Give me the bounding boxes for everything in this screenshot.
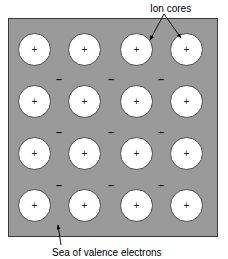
ion-core: + xyxy=(170,189,203,222)
positive-charge-symbol: + xyxy=(171,86,202,117)
positive-charge-symbol: + xyxy=(19,34,50,65)
ion-core: + xyxy=(120,137,153,170)
positive-charge-symbol: + xyxy=(69,190,100,221)
positive-charge-symbol: + xyxy=(121,86,152,117)
ion-core: + xyxy=(170,85,203,118)
ion-core: + xyxy=(18,137,51,170)
valence-electron-symbol: – xyxy=(108,180,114,191)
ion-cores-label: Ion cores xyxy=(150,3,191,14)
ion-core: + xyxy=(120,189,153,222)
valence-electron-symbol: – xyxy=(158,74,164,85)
positive-charge-symbol: + xyxy=(171,138,202,169)
sea-of-valence-electrons-label: Sea of valence electrons xyxy=(52,247,162,258)
positive-charge-symbol: + xyxy=(19,138,50,169)
ion-core: + xyxy=(120,85,153,118)
positive-charge-symbol: + xyxy=(121,34,152,65)
ion-core: + xyxy=(18,189,51,222)
valence-electron-symbol: – xyxy=(56,180,62,191)
ion-core: + xyxy=(170,137,203,170)
ion-core: + xyxy=(120,33,153,66)
metallic-bonding-figure: ++++++++++++++++––––––––– Ion cores Sea … xyxy=(0,0,228,259)
valence-electron-symbol: – xyxy=(56,127,62,138)
valence-electron-symbol: – xyxy=(158,127,164,138)
ion-core: + xyxy=(18,33,51,66)
positive-charge-symbol: + xyxy=(171,34,202,65)
valence-electron-symbol: – xyxy=(108,127,114,138)
valence-electron-symbol: – xyxy=(108,74,114,85)
ion-core: + xyxy=(68,85,101,118)
positive-charge-symbol: + xyxy=(19,86,50,117)
positive-charge-symbol: + xyxy=(121,138,152,169)
ion-core: + xyxy=(170,33,203,66)
ion-core: + xyxy=(68,189,101,222)
positive-charge-symbol: + xyxy=(171,190,202,221)
ion-core: + xyxy=(68,137,101,170)
valence-electron-symbol: – xyxy=(56,74,62,85)
positive-charge-symbol: + xyxy=(19,190,50,221)
valence-electron-symbol: – xyxy=(158,180,164,191)
ion-core: + xyxy=(18,85,51,118)
positive-charge-symbol: + xyxy=(69,138,100,169)
ion-core: + xyxy=(68,33,101,66)
positive-charge-symbol: + xyxy=(69,86,100,117)
positive-charge-symbol: + xyxy=(121,190,152,221)
positive-charge-symbol: + xyxy=(69,34,100,65)
